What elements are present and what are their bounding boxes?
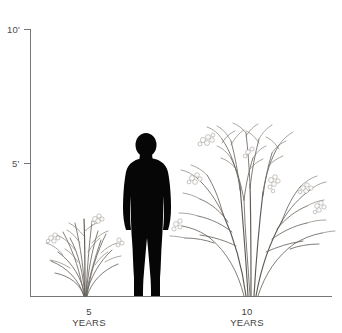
category-label-five-years: 5 YEARS: [72, 306, 106, 328]
bloom-cluster: [172, 219, 182, 231]
chart-canvas: 10' 5': [0, 0, 342, 333]
category-unit: YEARS: [72, 317, 106, 328]
category-unit: YEARS: [230, 317, 264, 328]
bloom-cluster: [91, 214, 104, 225]
bloom-cluster: [313, 201, 326, 214]
y-axis-label-10ft: 10': [7, 24, 20, 35]
category-number: 5: [86, 306, 92, 317]
bloom-cluster: [298, 183, 313, 194]
bloom-cluster: [46, 233, 60, 243]
y-axis-label-5ft: 5': [12, 158, 20, 169]
growth-comparison-chart: 10' 5': [0, 0, 342, 333]
category-number: 10: [241, 306, 252, 317]
chart-axes: [24, 30, 332, 297]
shrub-5-years-illustration: [46, 214, 124, 296]
category-label-ten-years: 10 YEARS: [230, 306, 264, 328]
shrub-10-years-illustration: [170, 123, 335, 296]
bloom-cluster: [116, 238, 124, 247]
human-scale-figure: [123, 133, 171, 296]
bloom-cluster: [187, 173, 202, 185]
bloom-cluster: [198, 133, 215, 146]
bloom-cluster: [268, 175, 280, 193]
